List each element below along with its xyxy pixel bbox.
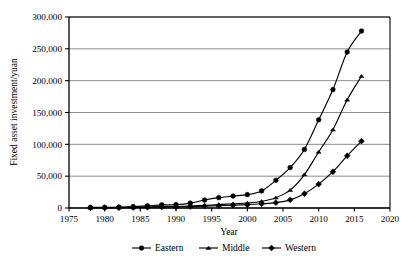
y-tick-label: 150,000 — [32, 108, 62, 118]
data-point-eastern — [331, 87, 336, 92]
y-tick-label: 250,000 — [32, 44, 62, 54]
y-axis-title: Fixed asset investment/yuan — [9, 58, 19, 166]
x-tick-label: 2010 — [309, 214, 328, 224]
data-point-eastern — [202, 198, 207, 203]
x-tick-label: 2015 — [345, 214, 364, 224]
y-tick-label: 300,000 — [32, 12, 62, 22]
y-tick-label: 100,000 — [32, 140, 62, 150]
x-tick-label: 2005 — [274, 214, 293, 224]
legend-label-middle: Middle — [222, 243, 249, 253]
x-tick-label: 1995 — [202, 214, 221, 224]
chart-figure: 1975198019851990199520002005201020152020… — [0, 0, 417, 263]
x-axis-title: Year — [220, 227, 238, 237]
data-point-eastern — [288, 165, 293, 170]
data-point-eastern — [259, 189, 264, 194]
y-tick-label: 50,000 — [37, 171, 63, 181]
y-tick-label: 200,000 — [32, 76, 62, 86]
legend-label-western: Western — [285, 243, 316, 253]
data-point-eastern — [345, 50, 350, 55]
data-point-eastern — [316, 117, 321, 122]
x-tick-label: 1990 — [167, 214, 186, 224]
legend-marker-eastern — [139, 246, 144, 251]
data-point-eastern — [216, 195, 221, 200]
data-point-eastern — [359, 29, 364, 34]
x-tick-label: 1980 — [95, 214, 114, 224]
legend-label-eastern: Eastern — [155, 243, 184, 253]
x-tick-label: 1985 — [131, 214, 150, 224]
data-point-eastern — [231, 194, 236, 199]
line-chart: 1975198019851990199520002005201020152020… — [0, 0, 417, 263]
x-tick-label: 1975 — [60, 214, 79, 224]
chart-legend: EasternMiddleWestern — [132, 243, 316, 253]
x-tick-label: 2020 — [381, 214, 400, 224]
x-tick-label: 2000 — [238, 214, 257, 224]
data-point-eastern — [302, 147, 307, 152]
data-point-eastern — [245, 192, 250, 197]
data-point-eastern — [273, 178, 278, 183]
y-tick-label: 0 — [57, 203, 62, 213]
